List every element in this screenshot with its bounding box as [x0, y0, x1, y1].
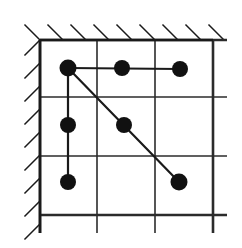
hatch-line-top [139, 24, 155, 40]
hatch-line-top [24, 24, 40, 40]
node-n4 [60, 117, 76, 133]
node-n1 [60, 60, 77, 77]
figure-container [0, 0, 242, 248]
hatch-line-top [116, 24, 132, 40]
hatch-line-top [185, 24, 201, 40]
mechanism-diagram [0, 0, 242, 248]
hatch-line-top [162, 24, 178, 40]
hatch-line-left [24, 155, 40, 171]
hatch-line-left [24, 86, 40, 102]
node-n6 [60, 174, 76, 190]
hatch-line-left [24, 224, 40, 240]
hatch-line-left [24, 40, 40, 56]
hatch-line-left [24, 178, 40, 194]
hatch-line-left [24, 132, 40, 148]
hatch-line-left [24, 63, 40, 79]
node-n5 [116, 117, 132, 133]
hatch-line-left [24, 109, 40, 125]
hatch-line-top [208, 24, 224, 40]
node-n3 [172, 61, 188, 77]
hatch-line-top [93, 24, 109, 40]
hatch-line-top [47, 24, 63, 40]
hatch-line-left [24, 201, 40, 217]
node-n2 [114, 60, 130, 76]
node-n7 [171, 174, 188, 191]
hatch-line-top [70, 24, 86, 40]
